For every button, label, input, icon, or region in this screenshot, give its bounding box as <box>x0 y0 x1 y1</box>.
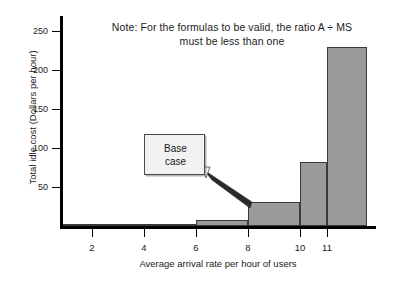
y-tick-250 <box>52 31 61 32</box>
x-tick-label-11: 11 <box>315 243 339 253</box>
bar-category-11 <box>327 47 367 226</box>
x-axis-line <box>60 226 376 229</box>
x-tick-label-2: 2 <box>80 243 104 253</box>
base-case-callout: Base case <box>144 134 205 175</box>
x-tick-label-4: 4 <box>132 243 156 253</box>
callout-line-1: Base <box>145 142 206 155</box>
y-tick-50 <box>52 187 61 188</box>
chart-page: Note: For the formulas to be valid, the … <box>0 0 399 286</box>
x-axis-title: Average arrival rate per hour of users <box>60 258 376 269</box>
x-tick-10 <box>300 229 301 237</box>
x-tick-2 <box>92 229 93 237</box>
x-tick-label-8: 8 <box>236 243 260 253</box>
callout-line-2: case <box>145 155 206 168</box>
x-tick-11 <box>327 229 328 237</box>
bar-category-10 <box>300 162 327 226</box>
y-axis-title: Total idle cost (Dollars per hour) <box>27 23 38 213</box>
base-case-callout-text: Base case <box>145 142 206 168</box>
bar-category-8 <box>248 202 300 226</box>
x-tick-6 <box>196 229 197 237</box>
x-tick-label-10: 10 <box>288 243 312 253</box>
plot-area: 250 200 150 100 50 2 4 6 8 10 11 Total i… <box>0 0 399 286</box>
x-tick-4 <box>144 229 145 237</box>
x-tick-8 <box>248 229 249 237</box>
y-axis-line <box>60 16 63 227</box>
x-tick-label-6: 6 <box>184 243 208 253</box>
y-tick-100 <box>52 148 61 149</box>
y-tick-200 <box>52 70 61 71</box>
y-tick-150 <box>52 109 61 110</box>
